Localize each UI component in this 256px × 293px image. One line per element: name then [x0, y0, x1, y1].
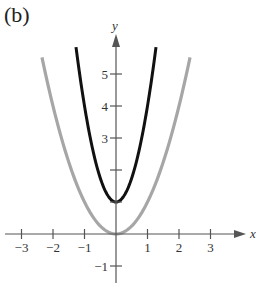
y-tick-label: −1: [94, 259, 108, 274]
x-tick-label: 1: [144, 240, 151, 255]
y-axis-arrow-icon: [112, 34, 120, 47]
y-axis-label: y: [110, 18, 118, 33]
y-tick-label: 5: [102, 67, 109, 82]
x-tick-label: −3: [15, 240, 29, 255]
x-tick-label: −2: [46, 240, 60, 255]
x-tick-label: 2: [176, 240, 183, 255]
y-tick-label: 3: [102, 131, 109, 146]
x-axis-label: x: [249, 226, 256, 241]
x-axis-arrow-icon: [234, 230, 246, 238]
chart: xy−3−2−1123−1345: [0, 0, 256, 293]
x-tick-label: −1: [78, 240, 92, 255]
x-tick-label: 3: [207, 240, 214, 255]
y-tick-label: 4: [102, 99, 109, 114]
